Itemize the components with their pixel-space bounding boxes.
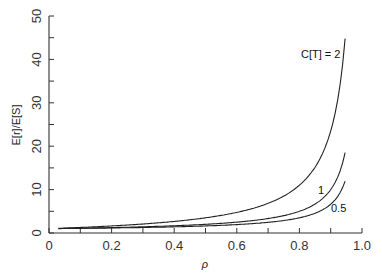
series-label-c1: 1 (318, 184, 324, 196)
x-tick-label: 0 (45, 238, 52, 253)
x-tick-label: 0.2 (103, 238, 121, 253)
labels: C[T] = 210.5 (301, 48, 346, 214)
x-tick-label: 1.0 (353, 238, 371, 253)
x-tick-label: 0.8 (290, 238, 308, 253)
x-axis-label: ρ (201, 258, 208, 270)
axes: 00.20.40.60.81.001020304050 (29, 9, 371, 253)
y-tick-label: 30 (29, 96, 44, 110)
y-axis-label: E[r]/E[S] (10, 105, 22, 146)
series-label-c05: 0.5 (331, 202, 346, 214)
series-line (58, 39, 345, 229)
series-label-c2: C[T] = 2 (301, 48, 340, 60)
y-tick-label: 0 (29, 229, 44, 236)
x-tick-label: 0.4 (165, 238, 183, 253)
y-tick-label: 50 (29, 9, 44, 23)
y-tick-label: 40 (29, 52, 44, 66)
curves (58, 39, 345, 229)
y-tick-label: 10 (29, 182, 44, 196)
series-line (58, 181, 345, 229)
chart: 00.20.40.60.81.001020304050 C[T] = 210.5… (0, 0, 382, 276)
y-tick-label: 20 (29, 139, 44, 153)
x-tick-label: 0.6 (228, 238, 246, 253)
